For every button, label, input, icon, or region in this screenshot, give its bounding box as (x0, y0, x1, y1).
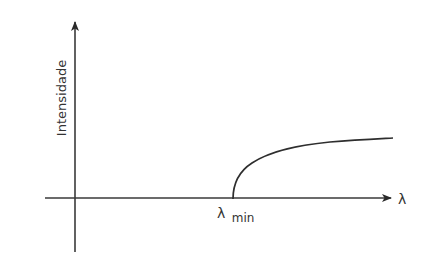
lambda-min-label: λ min (217, 205, 254, 225)
lambda-min-subscript: min (232, 211, 255, 225)
x-axis-label: λ (398, 191, 406, 207)
intensity-diagram: Intensidade λ λ min (0, 0, 427, 256)
intensity-curve (233, 138, 393, 199)
y-axis-label: Intensidade (54, 60, 69, 136)
lambda-min-symbol: λ (217, 205, 225, 221)
